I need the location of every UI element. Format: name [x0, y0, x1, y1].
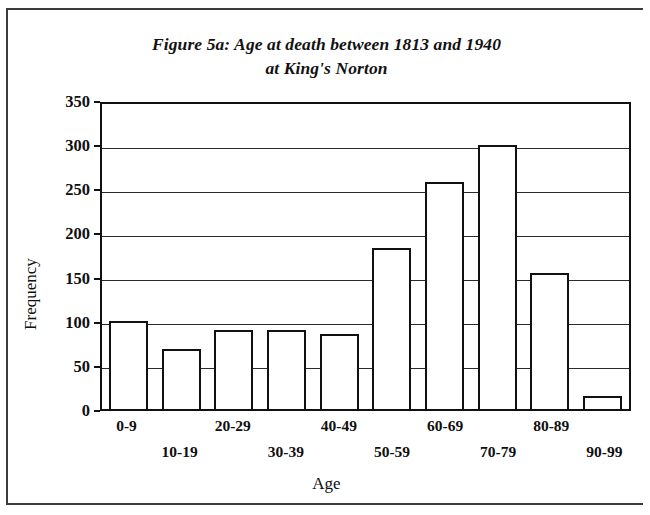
x-tick-label-60-69: 60-69 — [427, 417, 463, 435]
bar-slot — [260, 104, 313, 409]
x-axis: 0-910-1920-2930-3940-4950-5960-6970-7980… — [100, 413, 631, 467]
x-axis-title: Age — [8, 474, 645, 494]
x-tick-slot: 80-89 — [525, 413, 578, 467]
x-tick-label-50-59: 50-59 — [374, 443, 410, 461]
bar-20-29 — [214, 330, 253, 409]
y-tick-label: 250 — [65, 180, 90, 200]
y-tick-label: 350 — [65, 92, 90, 112]
x-tick-slot: 20-29 — [206, 413, 259, 467]
figure-frame: Figure 5a: Age at death between 1813 and… — [6, 8, 643, 505]
chart-title-line-2: at King's Norton — [8, 56, 645, 80]
x-tick-slot: 50-59 — [365, 413, 418, 467]
chart-title-line-1: Figure 5a: Age at death between 1813 and… — [152, 34, 501, 54]
x-tick-slot: 40-49 — [312, 413, 365, 467]
bar-0-9 — [109, 321, 148, 409]
y-tick-label: 300 — [65, 136, 90, 156]
y-axis: Frequency 050100150200250300350 — [8, 102, 100, 411]
bar-80-89 — [530, 273, 569, 409]
x-tick-label-80-89: 80-89 — [533, 417, 569, 435]
bar-slot — [524, 104, 577, 409]
x-tick-label-70-79: 70-79 — [480, 443, 516, 461]
y-tick-label: 0 — [82, 401, 90, 421]
bar-30-39 — [267, 330, 306, 409]
bar-slot — [102, 104, 155, 409]
x-tick-slot: 60-69 — [419, 413, 472, 467]
y-axis-title: Frequency — [21, 224, 41, 364]
bar-slot — [313, 104, 366, 409]
bar-slot — [576, 104, 629, 409]
y-tick-label: 50 — [74, 357, 91, 377]
plot-area — [100, 102, 631, 411]
x-tick-slot: 30-39 — [259, 413, 312, 467]
bar-70-79 — [478, 145, 517, 409]
y-tick-label: 100 — [65, 313, 90, 333]
x-tick-slot: 10-19 — [153, 413, 206, 467]
y-tick-label: 200 — [65, 224, 90, 244]
bar-90-99 — [583, 396, 622, 409]
bar-slot — [207, 104, 260, 409]
bar-40-49 — [320, 334, 359, 409]
bar-slot — [366, 104, 419, 409]
bar-50-59 — [372, 248, 411, 409]
x-tick-label-30-39: 30-39 — [268, 443, 304, 461]
bar-series — [102, 104, 629, 409]
bar-60-69 — [425, 182, 464, 409]
x-tick-slot: 70-79 — [472, 413, 525, 467]
x-tick-label-10-19: 10-19 — [162, 443, 198, 461]
x-tick-label-90-99: 90-99 — [586, 443, 622, 461]
bar-10-19 — [162, 349, 201, 409]
bar-slot — [418, 104, 471, 409]
y-tick-label: 150 — [65, 269, 90, 289]
bar-slot — [155, 104, 208, 409]
x-tick-label-40-49: 40-49 — [321, 417, 357, 435]
x-tick-label-0-9: 0-9 — [116, 417, 137, 435]
x-tick-label-20-29: 20-29 — [215, 417, 251, 435]
bar-slot — [471, 104, 524, 409]
chart-title: Figure 5a: Age at death between 1813 and… — [8, 32, 645, 80]
x-tick-slot: 0-9 — [100, 413, 153, 467]
x-tick-slot: 90-99 — [578, 413, 631, 467]
